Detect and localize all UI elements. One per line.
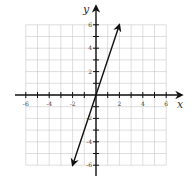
y-tick-label: 4	[88, 44, 92, 51]
axes	[15, 6, 182, 176]
x-tick-label: -6	[23, 100, 29, 107]
x-tick-label: 6	[164, 100, 168, 107]
x-tick-label: 2	[117, 100, 121, 107]
y-tick-label: -4	[86, 138, 92, 145]
y-tick-label: 2	[88, 68, 92, 75]
x-tick-label: -2	[70, 100, 76, 107]
x-axis-label: x	[177, 98, 184, 111]
y-axis-label: y	[82, 3, 90, 16]
y-tick-label: 6	[88, 21, 92, 28]
x-tick-label: -4	[46, 100, 52, 107]
y-tick-label: -6	[86, 161, 92, 168]
x-tick-label: 4	[141, 100, 145, 107]
coordinate-plane: -6-4-2246-6-4-2246 x y	[0, 0, 192, 181]
